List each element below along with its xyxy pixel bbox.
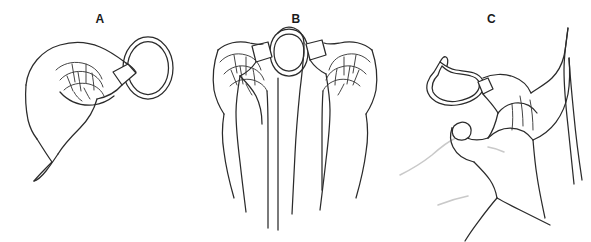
panel-c: C xyxy=(392,0,591,242)
panel-c-illustration xyxy=(392,0,591,242)
figure-container: A xyxy=(0,0,591,242)
body-outline-faint xyxy=(400,139,504,205)
panel-b: B xyxy=(196,0,396,242)
ring-compressed-icon xyxy=(427,57,484,106)
panel-b-illustration xyxy=(196,0,396,242)
panel-a: A xyxy=(0,0,200,242)
panel-a-illustration xyxy=(0,0,200,242)
